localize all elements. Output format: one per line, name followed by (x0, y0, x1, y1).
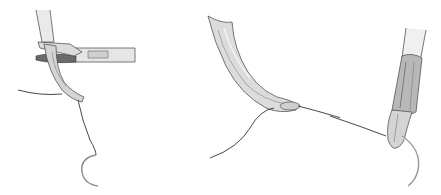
needle-driver-illustration (330, 0, 441, 195)
needle-holder-illustration (0, 0, 150, 195)
surgical-illustration (0, 0, 441, 195)
panel-left-needle-holder (0, 0, 150, 195)
panel-right-needle-driver (330, 0, 441, 195)
panel-middle-curved-instrument (190, 0, 340, 195)
curved-instrument-illustration (190, 0, 340, 195)
